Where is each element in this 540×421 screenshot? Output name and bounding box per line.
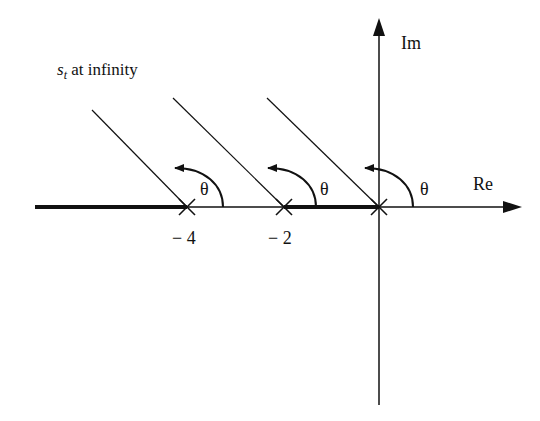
- pole-label-minus-2: − 2: [268, 229, 292, 247]
- real-axis-label: Re: [473, 175, 493, 193]
- asymptote-caption: st at infinity: [57, 61, 138, 81]
- caption-text: at infinity: [67, 60, 138, 79]
- angle-label-1: θ: [200, 180, 209, 198]
- angle-label-2: θ: [320, 180, 329, 198]
- root-locus-diagram: st at infinity Im Re θ θ θ − 4 − 2: [0, 0, 540, 421]
- angle-label-3: θ: [420, 180, 429, 198]
- imag-axis-arrow-icon: [373, 18, 385, 36]
- asymptote-line-2: [173, 98, 284, 207]
- angle-arc-2: [268, 168, 316, 207]
- real-axis-arrow-icon: [503, 201, 522, 213]
- pole-label-minus-4: − 4: [172, 229, 196, 247]
- imag-axis-label: Im: [401, 34, 421, 52]
- asymptote-line-1: [92, 110, 187, 207]
- caption-symbol: s: [57, 60, 64, 79]
